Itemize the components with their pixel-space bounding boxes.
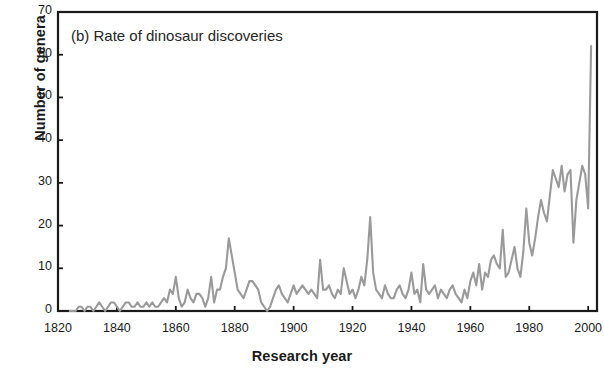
x-tick-label: 1860	[151, 321, 201, 335]
x-tick-label: 1980	[504, 321, 554, 335]
x-tick-label: 1880	[210, 321, 260, 335]
x-tick-label: 1940	[386, 321, 436, 335]
x-tick-label: 1960	[445, 321, 495, 335]
x-tick-label: 1820	[33, 321, 83, 335]
x-tick-label: 1900	[269, 321, 319, 335]
x-tick-label: 2000	[563, 321, 604, 335]
x-tick-label: 1840	[92, 321, 142, 335]
chart-figure: Number of genera Research year (b) Rate …	[0, 0, 604, 377]
x-axis-tick-labels: 1820184018601880190019201940196019802000	[0, 0, 604, 377]
x-tick-label: 1920	[328, 321, 378, 335]
